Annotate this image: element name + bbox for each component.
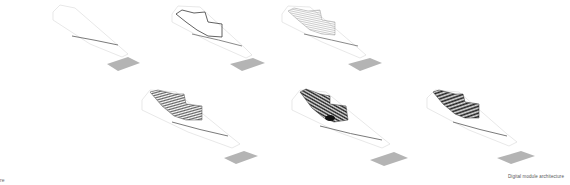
ridge-line [304, 34, 358, 46]
module-hatched [433, 90, 479, 118]
base-plate [348, 58, 382, 71]
ridge-line [172, 122, 228, 136]
corner-text-fragment: re [0, 177, 4, 183]
stage-3-drawing [280, 2, 390, 74]
diagram-stage-3 [280, 2, 390, 74]
diagram-stage-4 [140, 86, 270, 168]
stage-6-drawing [425, 86, 555, 168]
base-plate [224, 151, 258, 164]
module-hatched [150, 90, 202, 120]
stage-2-drawing [170, 2, 280, 74]
diagram-stage-5 [290, 86, 420, 168]
caption: Digital module architecture [508, 174, 564, 179]
site-outline [53, 5, 128, 57]
stage-5-drawing [290, 86, 420, 168]
ridge-line [72, 36, 118, 45]
ridge-line [453, 122, 507, 136]
base-plate [370, 152, 408, 166]
diagram-stage-6 [425, 86, 555, 168]
base-plate [107, 57, 140, 71]
site-outline [172, 6, 252, 58]
base-plate [230, 58, 265, 71]
module-hatched [288, 8, 335, 35]
module-outline [176, 10, 222, 37]
base-plate [497, 151, 535, 164]
stage-4-drawing [140, 86, 270, 168]
ridge-line [192, 34, 242, 46]
stage-1-drawing [50, 2, 150, 74]
diagram-stage-2 [170, 2, 280, 74]
diagram-stage-1 [50, 2, 150, 74]
ridge-line [320, 126, 382, 140]
shadow-mass [325, 115, 335, 121]
